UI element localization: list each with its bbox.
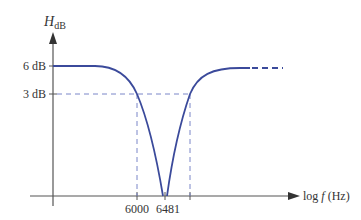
tick-label-6481: 6481 [156,202,180,216]
y-axis-label: HdB [43,14,66,31]
tick-label-6000: 6000 [125,202,149,216]
tick-label-6db: 6 dB [23,59,46,73]
tick-label-3db: 3 dB [23,87,46,101]
x-axis-label: log f (Hz) [303,189,350,203]
y-axis-arrow-icon [49,32,57,44]
response-curve [53,66,250,196]
notch-filter-diagram: HdB 6 dB 3 dB 6000 6481 log f (Hz) [0,0,361,220]
x-axis-arrow-icon [288,192,300,200]
